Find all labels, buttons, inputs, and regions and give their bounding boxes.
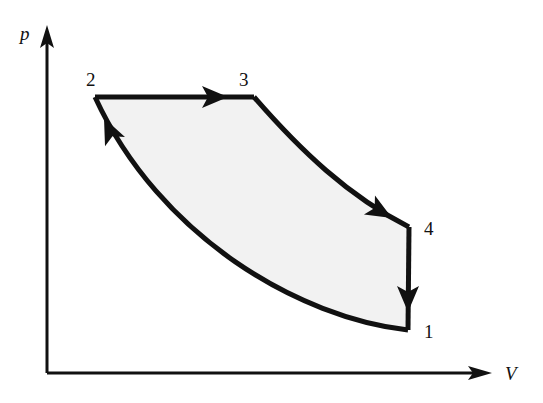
pv-cycle-diagram: p V 1 2 3 4	[0, 0, 543, 403]
state-label-3: 3	[239, 69, 249, 90]
state-label-4: 4	[424, 218, 434, 239]
state-label-1: 1	[424, 321, 434, 342]
process-4-to-1-path	[408, 227, 409, 330]
state-label-2: 2	[86, 69, 96, 90]
pressure-axis-label: p	[18, 23, 30, 44]
